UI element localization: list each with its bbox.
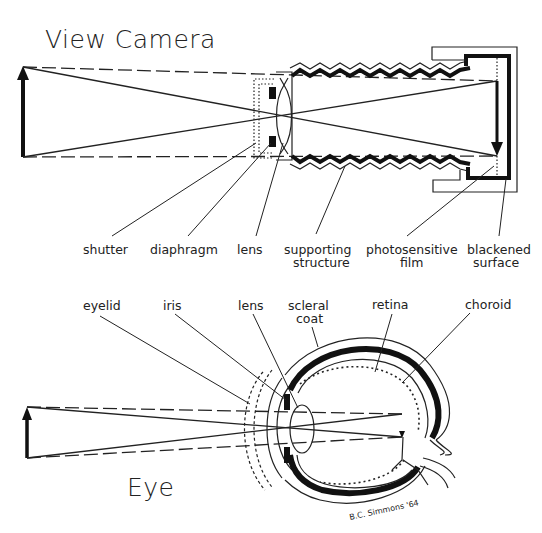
label-choroid: choroid [465,297,511,312]
eye-diagram: eyelid iris lens scleral coat retina cho… [22,297,511,522]
iris-bottom [284,447,290,463]
label-coat: coat [296,311,323,326]
label-camera-lens: lens [237,242,263,257]
diaphragm-top [269,87,276,99]
view-camera-diagram: View Camera [17,25,531,270]
camera-back-frame [432,47,517,192]
camera-light-rays [23,67,497,157]
label-shutter: shutter [83,242,129,257]
eye-light-rays [27,407,402,458]
label-surface: surface [473,255,520,270]
label-diaphragm: diaphragm [150,242,218,257]
eye-object-arrow-icon [22,407,32,458]
retina [300,367,419,432]
label-structure: structure [293,255,350,270]
supporting-structure-bellows [290,61,470,171]
label-retina: retina [372,297,409,312]
iris-top [284,394,290,410]
label-eye-lens: lens [238,298,264,313]
blackened-surface [466,56,509,178]
camera-eye-comparison-diagram: View Camera [0,0,542,533]
object-arrow-icon [17,66,29,157]
inverted-image-arrow-icon [491,81,503,156]
label-eyelid: eyelid [83,298,121,313]
diaphragm-bottom [269,136,276,147]
eye-title: Eye [127,473,174,502]
label-iris: iris [163,298,182,313]
camera-title: View Camera [45,25,216,54]
label-film: film [400,255,424,270]
